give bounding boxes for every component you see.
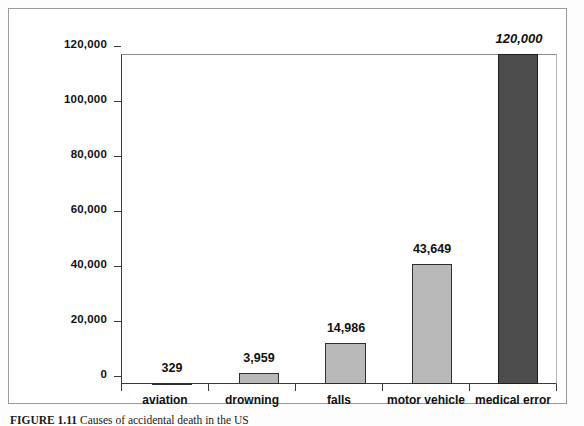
figure-page: causes of accidental death in the US 120…	[0, 0, 584, 426]
bar-aviation[interactable]	[152, 383, 192, 385]
figure-caption-label: FIGURE 1.11	[10, 414, 77, 426]
y-axis-tick-mark	[114, 321, 121, 322]
x-axis-tick-mark	[469, 384, 470, 391]
bar-value-drowning: 3,959	[229, 351, 289, 365]
y-axis-tick-label: 0	[100, 368, 107, 380]
x-axis-tick-mark	[382, 384, 383, 391]
bar-motor-vehicle[interactable]	[412, 264, 452, 384]
y-axis-tick-label: 40,000	[71, 258, 107, 270]
bar-falls[interactable]	[325, 343, 366, 384]
bar-value-motor-vehicle: 43,649	[398, 242, 466, 256]
bar-value-aviation: 329	[142, 361, 202, 375]
x-axis-label-motor-vehicle: motor vehicle	[381, 393, 471, 407]
figure-caption: FIGURE 1.11 Causes of accidental death i…	[10, 414, 574, 426]
x-axis-label-falls: falls	[296, 393, 382, 407]
bar-drowning[interactable]	[239, 373, 279, 384]
x-axis-tick-mark	[121, 384, 122, 391]
y-axis-tick-label: 60,000	[71, 203, 107, 215]
y-axis-tick-mark	[114, 266, 121, 267]
bar-medical-error[interactable]	[498, 54, 538, 384]
x-axis-tick-mark	[556, 384, 557, 391]
y-axis-tick-mark	[114, 156, 121, 157]
bar-value-medical-error: 120,000	[482, 31, 556, 46]
x-axis-label-aviation: aviation	[122, 393, 208, 407]
y-axis-tick-mark	[114, 376, 121, 377]
figure-frame: causes of accidental death in the US 120…	[8, 8, 567, 404]
y-axis-tick-mark	[114, 101, 121, 102]
y-axis-tick-label: 80,000	[71, 148, 107, 160]
y-axis-tick-label: 120,000	[64, 38, 107, 50]
x-axis-tick-mark	[208, 384, 209, 391]
bar-value-falls: 14,986	[312, 321, 380, 335]
figure-caption-text: Causes of accidental death in the US	[80, 414, 249, 426]
x-axis-label-medical-error: medical error	[468, 393, 558, 407]
x-axis-label-drowning: drowning	[209, 393, 295, 407]
y-axis-tick-mark	[114, 46, 121, 47]
y-axis-tick-label: 20,000	[71, 313, 107, 325]
y-axis-tick-mark	[114, 211, 121, 212]
x-axis-tick-mark	[295, 384, 296, 391]
y-axis-tick-label: 100,000	[64, 93, 107, 105]
